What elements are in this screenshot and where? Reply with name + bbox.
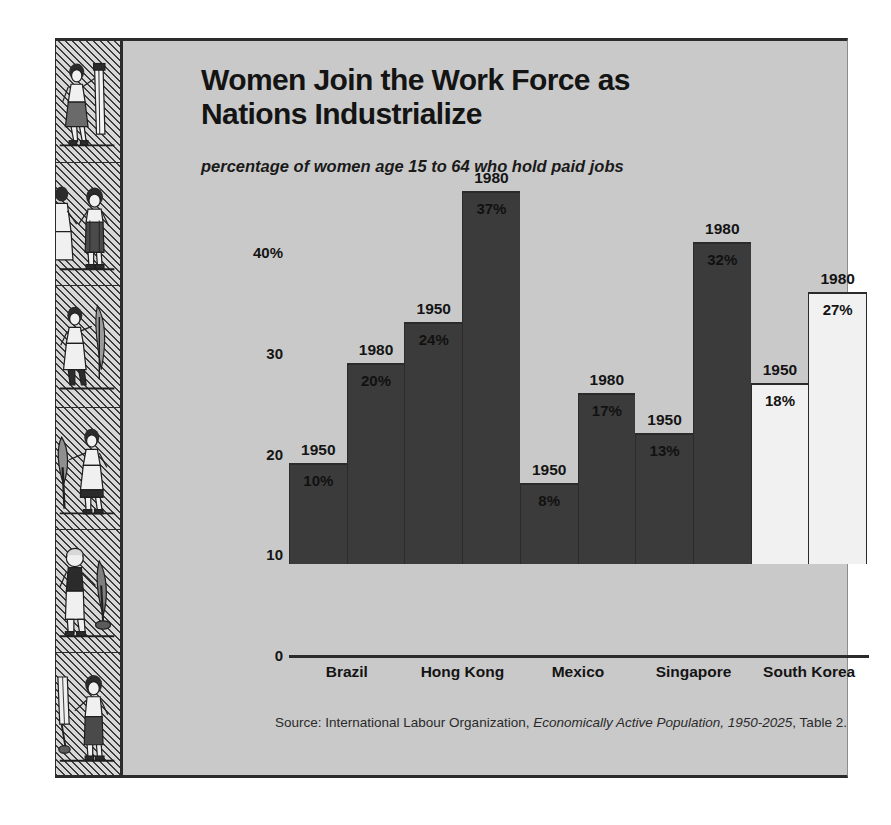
category-label: Hong Kong (405, 663, 521, 681)
source-years: 1950-2025 (728, 715, 793, 730)
bar-value-label: 10% (303, 472, 333, 489)
bar: 195018% (751, 383, 809, 564)
bar: 198027% (808, 292, 867, 564)
sidebar-panel-5 (56, 530, 120, 652)
bar-value-label: 8% (538, 492, 560, 509)
bar-year-label: 1950 (417, 300, 451, 318)
source-prefix: Source: International Labour Organizatio… (275, 715, 533, 730)
sidebar-panel-3 (56, 286, 120, 408)
bar-year-label: 1950 (301, 441, 335, 459)
bar: 198037% (462, 191, 520, 564)
source-title: Economically Active Population, (533, 715, 724, 730)
chart-figure: Women Join the Work Force as Nations Ind… (55, 38, 848, 778)
bar-year-label: 1980 (474, 169, 508, 187)
source-suffix: , Table 2. (792, 715, 847, 730)
bar: 195013% (635, 433, 693, 564)
bar-value-label: 32% (707, 251, 737, 268)
bar: 198017% (578, 393, 636, 564)
bar: 198032% (693, 242, 751, 564)
decorative-sidebar-strip (55, 41, 123, 775)
sidebar-panel-4 (56, 408, 120, 530)
bar-year-label: 1980 (705, 220, 739, 238)
source-citation: Source: International Labour Organizatio… (275, 713, 865, 734)
bar-year-label: 1980 (359, 341, 393, 359)
category-label: Mexico (520, 663, 636, 681)
bar-value-label: 24% (419, 331, 449, 348)
woman-with-shovel-icon (56, 530, 120, 651)
bar-value-label: 37% (476, 200, 506, 217)
bar-year-label: 1980 (590, 371, 624, 389)
category-label: South Korea (751, 663, 867, 681)
category-label: Singapore (636, 663, 752, 681)
bar-year-label: 1950 (647, 411, 681, 429)
bar: 195024% (404, 322, 462, 564)
y-axis-tick: 20 (223, 445, 283, 462)
bar-year-label: 1950 (763, 361, 797, 379)
bar-value-label: 13% (650, 442, 680, 459)
bar-value-label: 20% (361, 372, 391, 389)
y-axis-tick: 10 (223, 546, 283, 563)
y-axis-tick: 40% (223, 244, 283, 261)
woman-with-wheat-sheaf-icon (56, 286, 120, 407)
y-axis-tick: 0 (223, 647, 283, 664)
sidebar-panel-2 (56, 163, 120, 285)
bar-value-label: 27% (823, 301, 853, 318)
bar: 19508% (520, 483, 578, 564)
category-labels: BrazilHong KongMexicoSingaporeSouth Kore… (289, 663, 867, 681)
bar-year-label: 1980 (820, 270, 854, 288)
bar-value-label: 17% (592, 402, 622, 419)
bar-year-label: 1950 (532, 461, 566, 479)
bar-series: 195010%198020%195024%198037%19508%198017… (289, 161, 867, 564)
y-axis: 010203040% (213, 41, 283, 775)
sidebar-panel-6 (56, 653, 120, 775)
woman-with-rolled-blueprint-icon (56, 41, 120, 162)
bar: 198020% (347, 363, 405, 565)
y-axis-tick: 30 (223, 344, 283, 361)
woman-with-tool-and-child-icon (56, 653, 120, 775)
sidebar-panel-1 (56, 41, 120, 163)
x-axis-line (289, 655, 869, 658)
chart-content: Women Join the Work Force as Nations Ind… (123, 41, 847, 775)
bar-value-label: 18% (765, 392, 795, 409)
woman-with-oar-icon (56, 408, 120, 529)
category-label: Brazil (289, 663, 405, 681)
bar: 195010% (289, 463, 347, 564)
plot-area: 010203040% 195010%198020%195024%198037%1… (123, 41, 847, 775)
woman-with-child-worker-icon (56, 163, 120, 284)
